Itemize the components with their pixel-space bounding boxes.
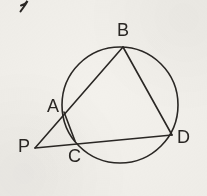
vertex-label-c: C: [68, 147, 81, 165]
geometry-figure: B A C D P: [0, 0, 207, 196]
geometry-canvas: [0, 0, 207, 196]
vertex-label-p: P: [18, 137, 30, 155]
segment-PD: [35, 135, 172, 148]
vertex-label-a: A: [47, 97, 59, 115]
segment-BD: [123, 47, 172, 135]
vertex-label-d: D: [177, 128, 190, 146]
vertex-label-b: B: [117, 21, 129, 39]
pen-stray-mark: [21, 1, 28, 12]
